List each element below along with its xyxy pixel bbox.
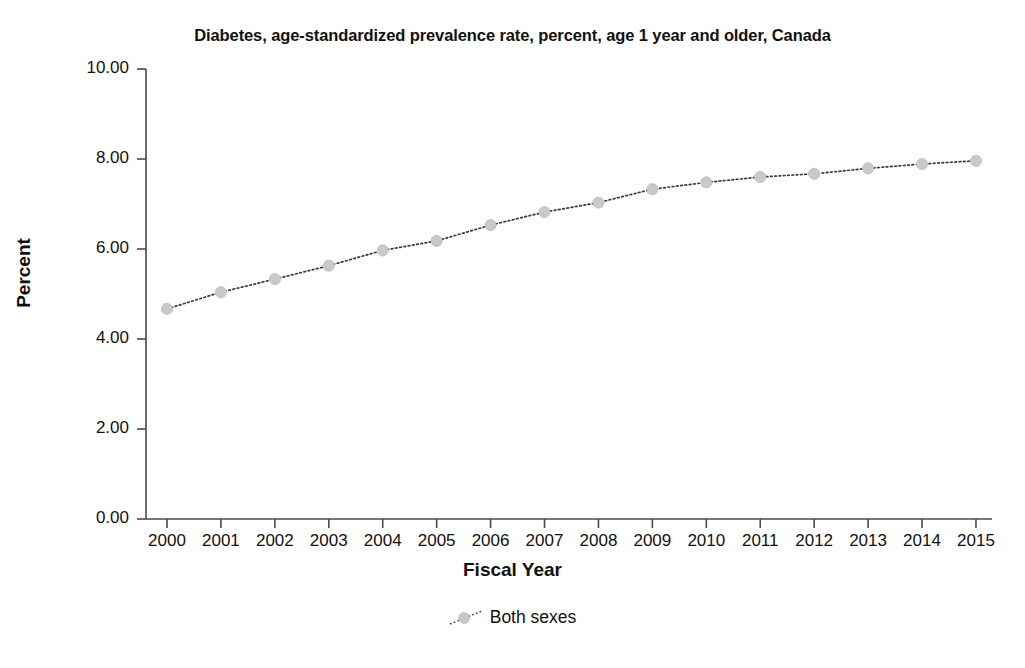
data-series-layer xyxy=(161,155,981,314)
data-point-marker xyxy=(377,245,388,256)
data-point-marker xyxy=(970,155,981,166)
legend-marker-icon xyxy=(449,609,483,627)
legend-entry-both-sexes: Both sexes xyxy=(449,607,577,628)
data-point-marker xyxy=(593,197,604,208)
data-point-marker xyxy=(863,163,874,174)
data-point-marker xyxy=(485,220,496,231)
y-axis-tick-label: 10.00 xyxy=(49,58,129,78)
legend-label: Both sexes xyxy=(490,607,577,628)
chart-container: Diabetes, age-standardized prevalence ra… xyxy=(0,0,1025,668)
x-axis-tick-label: 2009 xyxy=(622,531,682,551)
x-axis-tick-label: 2014 xyxy=(892,531,952,551)
plot-area xyxy=(0,0,1025,668)
data-point-marker xyxy=(161,303,172,314)
data-point-marker xyxy=(269,274,280,285)
series-line xyxy=(167,161,976,309)
axis-lines xyxy=(146,69,992,519)
x-axis-tick-label: 2001 xyxy=(191,531,251,551)
data-point-marker xyxy=(916,158,927,169)
y-axis-tick-label: 4.00 xyxy=(49,328,129,348)
x-axis-tick-label: 2015 xyxy=(946,531,1006,551)
x-axis-tick-label: 2011 xyxy=(730,531,790,551)
data-point-marker xyxy=(215,287,226,298)
data-point-marker xyxy=(647,184,658,195)
x-axis-tick-label: 2004 xyxy=(353,531,413,551)
y-axis-ticks xyxy=(137,69,146,519)
chart-legend: Both sexes xyxy=(0,607,1025,628)
y-axis-tick-label: 2.00 xyxy=(49,418,129,438)
x-axis-ticks xyxy=(167,519,976,528)
data-point-marker xyxy=(809,168,820,179)
x-axis-tick-label: 2013 xyxy=(838,531,898,551)
y-axis-tick-label: 0.00 xyxy=(49,508,129,528)
x-axis-tick-label: 2000 xyxy=(137,531,197,551)
x-axis-tick-label: 2005 xyxy=(407,531,467,551)
data-point-marker xyxy=(323,260,334,271)
data-point-marker xyxy=(755,171,766,182)
data-point-marker xyxy=(539,207,550,218)
y-axis-tick-label: 8.00 xyxy=(49,148,129,168)
x-axis-tick-label: 2003 xyxy=(299,531,359,551)
data-point-marker xyxy=(431,235,442,246)
y-axis-tick-label: 6.00 xyxy=(49,238,129,258)
x-axis-tick-label: 2002 xyxy=(245,531,305,551)
data-point-marker xyxy=(701,177,712,188)
x-axis-tick-label: 2007 xyxy=(515,531,575,551)
x-axis-tick-label: 2008 xyxy=(568,531,628,551)
x-axis-tick-label: 2010 xyxy=(676,531,736,551)
x-axis-tick-label: 2006 xyxy=(461,531,521,551)
x-axis-tick-label: 2012 xyxy=(784,531,844,551)
